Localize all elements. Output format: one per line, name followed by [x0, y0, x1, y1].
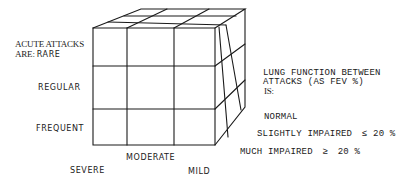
cube-front-face [93, 28, 215, 145]
level-severe: SEVERE [70, 167, 105, 175]
level-mild: MILD [188, 168, 210, 176]
greater-equal-symbol: ≥ [322, 147, 328, 157]
level-regular: REGULAR [38, 84, 81, 92]
lung-function-title-line3: IS: [264, 87, 274, 96]
level-normal: NORMAL [264, 113, 298, 122]
level-much-impaired: MUCH IMPAIRED ≥ 20 % [240, 148, 360, 157]
side-divider [219, 27, 228, 137]
less-equal-symbol: ≤ [362, 129, 368, 139]
cube-diagram: ACUTE ATTACKS ARE: RARE REGULAR FREQUENT… [0, 0, 414, 186]
lung-function-title-line2: ATTACKS (AS FEV %) [263, 78, 364, 87]
level-moderate: MODERATE [126, 154, 175, 162]
level-slightly-impaired: SLIGHTLY IMPAIRED ≤ 20 % [257, 130, 395, 139]
level-frequent: FREQUENT [36, 125, 84, 133]
acute-attacks-subtitle: ARE: RARE [15, 50, 61, 59]
top-divider [108, 22, 226, 25]
top-divider [174, 9, 209, 28]
cube-drawing [0, 0, 414, 186]
side-divider [226, 25, 241, 110]
acute-attacks-title: ACUTE ATTACKS [15, 40, 84, 49]
level-rare: RARE [37, 50, 61, 59]
